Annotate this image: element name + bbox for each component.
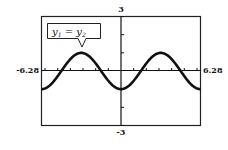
y-min-label: -3 — [117, 127, 126, 137]
callout-label: y1 = y2 — [51, 26, 86, 38]
graph-window: y1 = y2 3 -3 -6.28 6.28 — [0, 0, 228, 150]
y-max-label: 3 — [118, 4, 124, 14]
x-max-label: 6.28 — [203, 65, 223, 75]
x-min-label: -6.28 — [16, 65, 39, 75]
